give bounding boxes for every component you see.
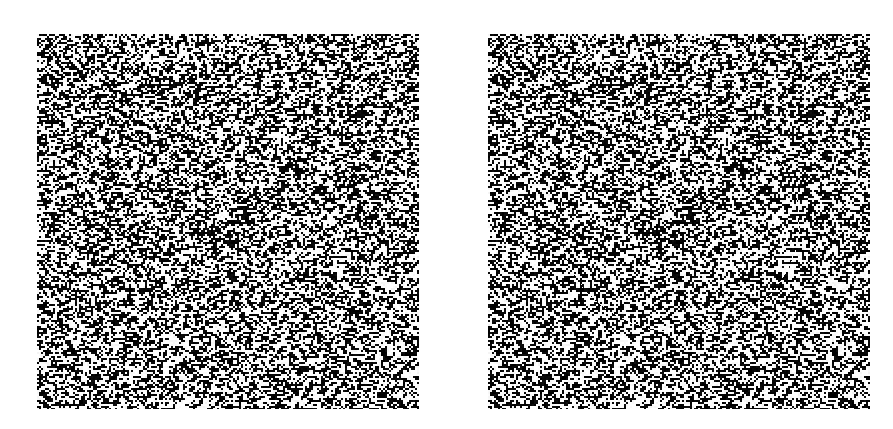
right-noise-panel: [488, 34, 870, 409]
stereogram-figure: [0, 0, 893, 429]
left-noise-texture: [37, 34, 419, 409]
left-noise-panel: [37, 34, 419, 409]
right-noise-texture: [488, 34, 870, 409]
